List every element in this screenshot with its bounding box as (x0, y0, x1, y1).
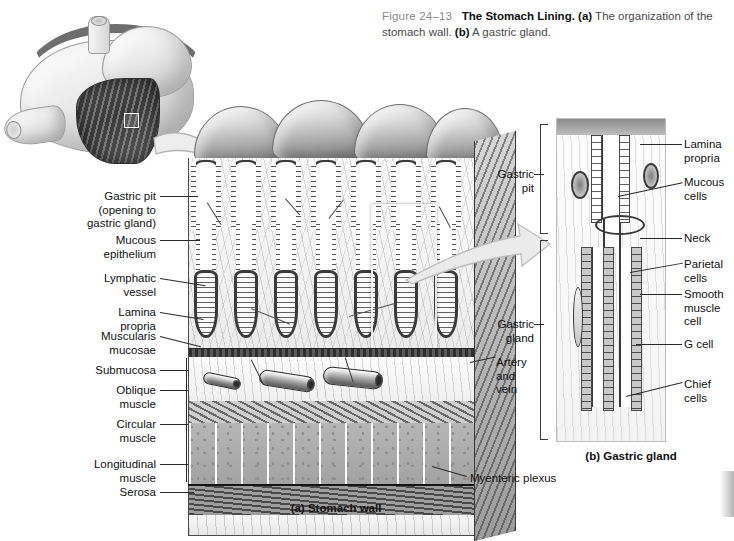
label-submucosa: Submucosa (56, 364, 156, 378)
label-myenteric-plexus: Myenteric plexus (470, 472, 590, 486)
figure-caption: Figure 24–13 The Stomach Lining. (a) The… (382, 8, 722, 40)
label-gastric-pit-b: Gastric pit (486, 168, 534, 195)
circular-muscle-layer (188, 423, 475, 486)
label-oblique-muscle: Oblique muscle (56, 384, 156, 411)
panel-a-to-panel-b-arrow-icon (404, 222, 554, 286)
part-a-marker: (a) (578, 10, 592, 22)
label-lymphatic-vessel: Lymphatic vessel (60, 272, 156, 299)
gastric-lumen-surface (557, 119, 665, 135)
small-vessel-tube (202, 371, 242, 391)
bracket-gastric-gland (540, 240, 548, 440)
parietal-cell-column (581, 247, 592, 411)
gastric-gland-unit (223, 158, 263, 348)
gland-base (194, 270, 218, 338)
highlight-box-icon (124, 113, 139, 128)
label-muscularis-mucosae: Muscularis mucosae (56, 330, 156, 357)
label-gastric-gland-b: Gastric gland (486, 318, 534, 345)
gland-base (234, 270, 258, 338)
label-g-cell: G cell (684, 338, 734, 352)
smooth-muscle-cell-shape (573, 287, 583, 347)
label-lamina-propria-b: Lamina propria (684, 138, 734, 165)
panel-a-caption: (a) Stomach wall (246, 502, 426, 514)
bracket-submucosa (186, 358, 187, 382)
cut-away-mucosa-interior (76, 78, 160, 164)
oblique-muscle-layer (188, 401, 475, 424)
leader-mucous-epithelium (160, 240, 200, 241)
panel-b-gastric-gland (556, 118, 666, 442)
leader-gastric-gland-b (534, 324, 544, 325)
label-neck: Neck (684, 232, 734, 246)
bracket-circular-muscle (186, 402, 187, 458)
panel-a-stomach-wall (188, 106, 496, 498)
gastric-gland-unit (303, 158, 343, 348)
mucous-cell-column (591, 135, 602, 223)
leader-gastric-pit (160, 196, 198, 197)
label-smooth-muscle-cell: Smooth muscle cell (684, 288, 734, 329)
panel-b-caption: (b) Gastric gland (556, 450, 706, 462)
part-b-marker: (b) (455, 26, 470, 38)
bracket-oblique-muscle (186, 382, 187, 402)
bracket-longitudinal-muscle (186, 456, 187, 482)
esophagus-stump (88, 16, 110, 54)
leader-circular-muscle (160, 424, 188, 425)
label-circular-muscle: Circular muscle (56, 418, 156, 445)
part-b-description: A gastric gland. (470, 26, 551, 38)
leader-gastric-pit-b (534, 174, 544, 175)
leader-g-cell (636, 344, 682, 345)
leader-neck (640, 238, 682, 239)
label-longitudinal-muscle: Longitudinal muscle (44, 458, 156, 485)
vein-tube (258, 369, 316, 394)
chief-cell-column (603, 247, 614, 411)
leader-oblique-muscle (160, 390, 188, 391)
label-serosa: Serosa (56, 486, 156, 500)
label-gastric-pit: Gastric pit (opening to gastric gland) (60, 190, 156, 231)
gland-base (314, 270, 338, 338)
label-chief-cells: Chief cells (684, 378, 734, 405)
leader-smooth-muscle-cell (640, 294, 682, 295)
label-mucous-epithelium: Mucous epithelium (60, 234, 156, 261)
figure-title: The Stomach Lining. (462, 10, 575, 22)
mucous-cell-column (619, 135, 630, 223)
leader-serosa (160, 492, 194, 493)
leader-lamina-propria-b (640, 144, 682, 145)
gland-neck-region-outline (595, 215, 645, 235)
gastric-gland-unit (263, 158, 303, 348)
lamina-propria-vessel (643, 163, 659, 189)
serosa-layer (188, 515, 475, 536)
artery-tube (322, 366, 384, 390)
gastric-gland-unit (188, 158, 223, 348)
leader-submucosa (160, 370, 188, 371)
label-mucous-cells: Mucous cells (684, 176, 734, 203)
myenteric-plexus-line (188, 484, 474, 486)
page-edge-tab (720, 471, 734, 517)
leader-longitudinal-muscle (160, 464, 188, 465)
label-lamina-propria: Lamina propria (60, 306, 156, 333)
figure-number: Figure 24–13 (382, 10, 452, 22)
label-parietal-cells: Parietal cells (684, 258, 734, 285)
bracket-gastric-pit (540, 124, 548, 234)
gland-base (274, 270, 298, 338)
submucosa-layer (188, 357, 475, 402)
lamina-propria-vessel (571, 171, 589, 199)
